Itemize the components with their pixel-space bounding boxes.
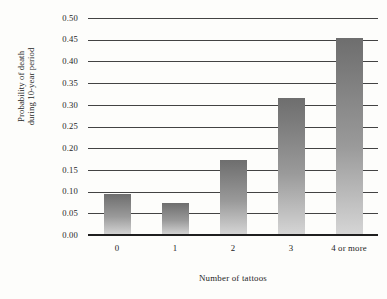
x-axis-title: Number of tattoos [88,273,378,283]
y-axis-tick-label: 0.45 [44,35,78,44]
y-axis-tick-label: 0.15 [44,166,78,175]
bar [278,98,305,235]
plot-area [88,18,378,235]
y-axis-tick-labels: 0.000.050.100.150.200.250.300.350.400.45… [44,0,78,299]
y-axis-tick-label: 0.30 [44,101,78,110]
y-axis-tick-label: 0.20 [44,144,78,153]
x-axis-tick-label: 0 [88,243,146,253]
x-axis-baseline [88,234,378,236]
y-axis-tick-label: 0.40 [44,57,78,66]
gridline [88,18,378,19]
bar-chart-figure: Probability of death during 10-year peri… [0,0,387,299]
y-axis-tick-label: 0.10 [44,187,78,196]
gridline [88,127,378,128]
y-axis-title-line-2: during 10-year period [26,20,36,152]
x-axis-tick-labels: 01234 or more [88,243,378,259]
y-axis-title: Probability of death during 10-year peri… [16,20,37,152]
gridline [88,61,378,62]
bar [336,38,363,235]
y-axis-tick-label: 0.50 [44,14,78,23]
x-axis-tick-label: 4 or more [320,243,378,253]
x-axis-tick-label: 3 [262,243,320,253]
gridline [88,40,378,41]
gridline [88,83,378,84]
gridline [88,105,378,106]
bar [104,194,131,235]
y-axis-tick-label: 0.35 [44,79,78,88]
gridline [88,148,378,149]
x-axis-tick-label: 1 [146,243,204,253]
y-axis-title-line-1: Probability of death [16,20,26,152]
bar [162,203,189,235]
y-axis-tick-label: 0.25 [44,122,78,131]
bar [220,160,247,235]
y-axis-tick-label: 0.00 [44,231,78,240]
y-axis-tick-label: 0.05 [44,209,78,218]
x-axis-tick-label: 2 [204,243,262,253]
